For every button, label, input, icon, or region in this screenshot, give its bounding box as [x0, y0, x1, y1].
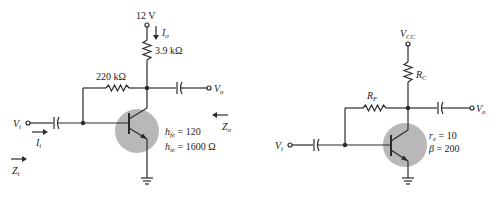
hie-parameter-label: hie = 1600 Ω [165, 141, 216, 154]
input-current-label-left: Ii [35, 137, 41, 150]
collector-resistor-label-right: RC [415, 69, 427, 82]
feedback-resistor-left [106, 85, 129, 91]
base-node-left [81, 121, 84, 124]
output-current-label-left: Io [161, 27, 169, 40]
zo-arrow-icon [212, 112, 228, 118]
collector-resistor-value-left: 3.9 kΩ [155, 45, 182, 56]
input-terminal-left [26, 121, 30, 125]
ii-arrow-icon [32, 129, 48, 135]
right-circuit [288, 42, 474, 184]
left-circuit [11, 23, 228, 184]
input-impedance-label-left: Zi [12, 165, 20, 178]
ground-icon-left [141, 178, 153, 184]
collector-resistor-left [143, 40, 151, 60]
supply-voltage-label-right: VCC [400, 28, 416, 41]
transistor-highlight-left [115, 109, 159, 153]
feedback-resistor-right [363, 105, 386, 111]
supply-terminal-right [406, 42, 410, 46]
feedback-resistor-value-left: 220 kΩ [96, 71, 126, 82]
re-parameter-label: re = 10 [429, 130, 457, 143]
feedback-resistor-label-right: RF [366, 90, 378, 103]
supply-terminal-left [145, 23, 149, 27]
base-node-right [343, 143, 346, 146]
collector-resistor-right [404, 62, 412, 82]
output-voltage-label-left: Vo [214, 83, 224, 96]
output-terminal-right [470, 106, 474, 110]
circuit-diagram: 12 V Io 3.9 kΩ 220 kΩ Vi Vo Ii Zi Zo hfe… [0, 0, 496, 205]
input-voltage-label-right: Vi [275, 140, 283, 153]
ground-icon-right [402, 178, 414, 184]
hfe-parameter-label: hfe = 120 [165, 126, 201, 139]
zi-arrow-icon [11, 156, 27, 162]
input-voltage-label-left: Vi [13, 118, 21, 131]
io-arrow-icon [153, 26, 159, 40]
input-terminal-right [288, 143, 292, 147]
output-terminal-left [207, 86, 211, 90]
supply-voltage-label-left: 12 V [136, 10, 156, 21]
output-impedance-label-left: Zo [222, 121, 232, 134]
beta-parameter-label: β = 200 [428, 143, 460, 154]
output-voltage-label-right: Vo [476, 103, 486, 116]
